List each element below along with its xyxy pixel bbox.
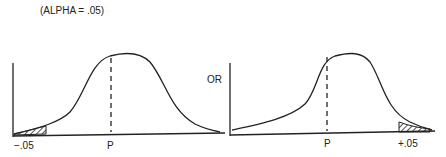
left-center-label: P (107, 140, 114, 151)
right-tail-label: +.05 (398, 138, 418, 149)
left-curve (14, 54, 220, 134)
left-tail-label: −.05 (14, 140, 34, 151)
left-distribution (13, 54, 225, 137)
left-tail-region (14, 126, 46, 135)
right-curve (232, 54, 432, 130)
right-center-label: P (324, 138, 331, 149)
distribution-diagrams (0, 0, 446, 157)
right-distribution (230, 54, 435, 136)
or-label: OR (207, 74, 222, 85)
